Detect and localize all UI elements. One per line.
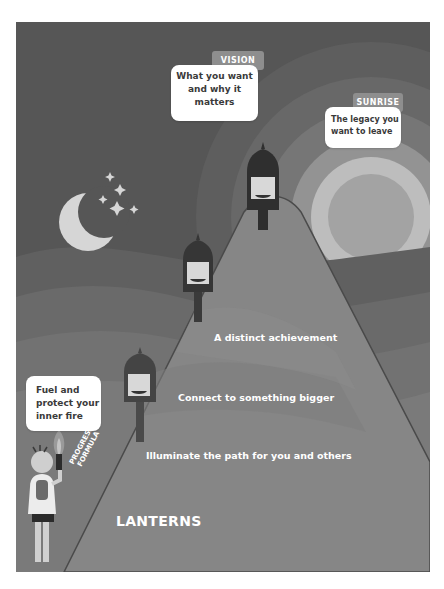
vision-card: What you want and why it matters: [171, 65, 258, 121]
vision-line: matters: [171, 96, 258, 109]
inner-fire-line: inner fire: [36, 410, 101, 423]
poster-title: LANTERNS: [116, 513, 202, 529]
sunrise-line: The legacy you: [331, 114, 401, 126]
sunrise-card: The legacy you want to leave: [325, 107, 401, 148]
inner-fire-line: Fuel and: [36, 384, 101, 397]
level-distinct-achievement: A distinct achievement: [214, 332, 337, 343]
sunrise-line: want to leave: [331, 126, 401, 138]
lanterns-poster: VISION What you want and why it matters …: [16, 22, 430, 572]
inner-fire-line: protect your: [36, 397, 101, 410]
vision-line: What you want: [171, 70, 258, 83]
vision-line: and why it: [171, 83, 258, 96]
inner-fire-card: Fuel and protect your inner fire: [26, 376, 101, 431]
level-connect-bigger: Connect to something bigger: [178, 392, 334, 403]
level-illuminate-path: Illuminate the path for you and others: [146, 450, 352, 461]
